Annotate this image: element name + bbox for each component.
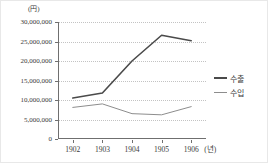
y-tick-label: 25,000,000	[21, 38, 53, 46]
x-tick-label: 1905	[154, 145, 169, 154]
series-line-import	[73, 104, 191, 115]
legend-item-export: 수출	[214, 71, 268, 85]
x-tick-mark	[132, 140, 133, 143]
y-tick-label: 30,000,000	[21, 18, 53, 26]
legend-item-import: 수입	[214, 85, 268, 99]
series-line-export	[73, 35, 191, 98]
x-tick-label: 1906	[184, 145, 199, 154]
x-tick-mark	[191, 140, 192, 143]
series-lines	[58, 22, 206, 139]
y-tick-label: 10,000,000	[21, 96, 53, 104]
legend-label-export: 수출	[230, 73, 244, 84]
x-tick-mark	[162, 140, 163, 143]
x-axis-unit-label: (년)	[204, 145, 216, 154]
chart-figure: (円) 30,000,00025,000,00020,000,00015,000…	[0, 0, 268, 163]
x-tick-label: 1904	[125, 145, 140, 154]
legend-swatch-export	[214, 77, 227, 79]
x-tick-mark	[102, 140, 103, 143]
x-tick-mark	[73, 140, 74, 143]
legend-swatch-import	[214, 92, 227, 93]
y-tick-label: 5,000,000	[24, 116, 52, 124]
y-axis-unit-label: (円)	[28, 3, 40, 13]
x-tick-label: 1902	[65, 145, 80, 154]
y-tick-label: 15,000,000	[21, 77, 53, 85]
x-tick-label: 1903	[95, 145, 110, 154]
legend-label-import: 수입	[230, 87, 244, 98]
y-tick-label: 20,000,000	[21, 57, 53, 65]
y-tick-label: 0	[49, 135, 53, 143]
plot-area	[58, 22, 206, 139]
legend: 수출 수입	[214, 71, 268, 99]
y-tick-mark	[55, 139, 58, 140]
